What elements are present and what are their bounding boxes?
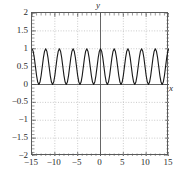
x-tick-label: −5 xyxy=(72,158,82,167)
x-tick-label: −15 xyxy=(24,158,38,167)
y-tick-label: 0.5 xyxy=(17,61,28,70)
x-tick-label: 10 xyxy=(141,158,150,167)
y-tick-label: −1.5 xyxy=(12,133,28,142)
x-tick-label: 15 xyxy=(164,158,173,167)
chart-figure: −2−1.5−1−0.500.511.52 −15−10−5051015 y x xyxy=(0,0,177,177)
y-tick-label: 0 xyxy=(24,79,29,88)
y-tick-label: 2 xyxy=(24,8,29,17)
y-tick-label: 1 xyxy=(24,43,29,52)
x-tick-label: 5 xyxy=(120,158,125,167)
y-tick-label: −1 xyxy=(18,115,28,124)
y-axis-label: y xyxy=(96,1,100,10)
plot-area xyxy=(31,12,168,155)
x-axis-label: x xyxy=(169,84,173,93)
y-tick-label: −0.5 xyxy=(12,97,28,106)
y-tick-label: 1.5 xyxy=(17,25,28,34)
plot-svg xyxy=(32,13,169,156)
x-tick-label: 0 xyxy=(97,158,102,167)
x-tick-label: −10 xyxy=(47,158,61,167)
